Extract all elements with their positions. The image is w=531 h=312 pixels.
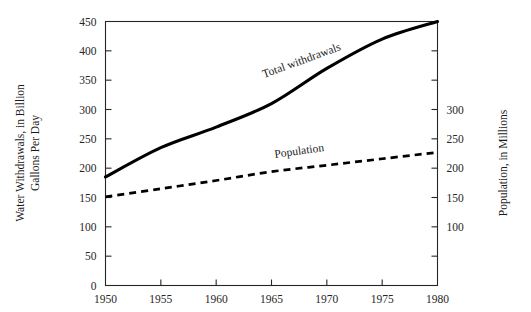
chart-figure: 050100150200250300350400450 100150200250… xyxy=(0,0,531,312)
right-tick-label: 250 xyxy=(447,133,465,145)
left-axis-title-line-1: Water Withdrawals, in Billion xyxy=(14,84,27,222)
right-axis-title: Population, in Millions xyxy=(497,109,510,216)
left-tick-label: 250 xyxy=(79,133,97,145)
x-tick-label: 1975 xyxy=(371,293,394,305)
x-tick-label: 1980 xyxy=(426,293,449,305)
left-tick-label: 200 xyxy=(79,162,97,174)
right-tick-label: 150 xyxy=(447,192,465,204)
right-axis-title-text: Population, in Millions xyxy=(497,109,510,216)
left-tick-label: 450 xyxy=(79,16,97,28)
left-tick-label: 350 xyxy=(79,74,97,86)
x-tick-label: 1970 xyxy=(315,293,338,305)
left-tick-label: 50 xyxy=(85,250,97,262)
x-tick-label: 1960 xyxy=(205,293,228,305)
right-tick-label: 200 xyxy=(447,162,465,174)
x-tick-label: 1965 xyxy=(260,293,283,305)
left-axis-title-line-2: Gallons Per Day xyxy=(29,115,42,191)
x-tick-label: 1955 xyxy=(149,293,172,305)
right-tick-label: 300 xyxy=(447,104,465,116)
x-tick-label: 1950 xyxy=(94,293,117,305)
left-tick-label: 100 xyxy=(79,221,97,233)
right-tick-label: 100 xyxy=(447,221,465,233)
left-tick-label: 400 xyxy=(79,45,97,57)
left-tick-label: 300 xyxy=(79,104,97,116)
left-tick-label: 150 xyxy=(79,192,97,204)
line-chart-canvas: 050100150200250300350400450 100150200250… xyxy=(0,0,531,312)
left-tick-label: 0 xyxy=(91,280,97,292)
